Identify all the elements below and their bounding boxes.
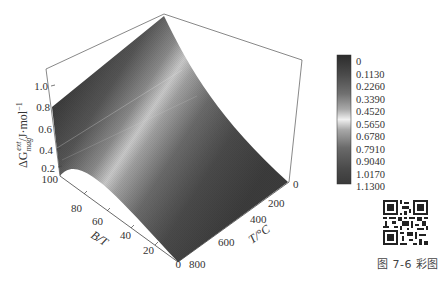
svg-text:60: 60 — [92, 215, 104, 227]
colorbar-label: 0.9040 — [356, 156, 385, 167]
svg-text:100: 100 — [42, 173, 59, 185]
svg-text:ΔGmagext/J·mol−1: ΔGmagext/J·mol−1 — [14, 102, 33, 168]
svg-text:0: 0 — [293, 178, 299, 190]
colorbar-label: 0 — [356, 56, 361, 67]
svg-text:0: 0 — [176, 258, 182, 270]
colorbar — [337, 55, 351, 184]
svg-text:0.4: 0.4 — [39, 144, 53, 156]
colorbar-label: 0.6780 — [356, 131, 385, 142]
colorbar-label: 1.0170 — [356, 169, 385, 180]
qr-code[interactable] — [383, 200, 428, 245]
colorbar-label: 0.4520 — [356, 106, 385, 117]
colorbar-label: 0.1130 — [356, 69, 385, 80]
b-axis-label: B/T — [88, 228, 111, 250]
svg-text:1.0: 1.0 — [34, 80, 48, 92]
svg-text:600: 600 — [218, 236, 235, 248]
svg-text:20: 20 — [143, 244, 155, 256]
svg-text:800: 800 — [189, 258, 206, 270]
colorbar-label: 0.3390 — [356, 94, 385, 105]
colorbar-label: 1.1300 — [356, 181, 385, 192]
svg-text:200: 200 — [268, 197, 285, 209]
svg-text:40: 40 — [120, 229, 132, 241]
t-axis-label: T/°C — [246, 221, 274, 246]
z-axis-label: ΔGmagext/J·mol−1 — [14, 102, 33, 168]
svg-text:0.8: 0.8 — [36, 101, 50, 113]
surface — [52, 16, 288, 262]
svg-text:80: 80 — [71, 202, 83, 214]
figure-caption: 图 7-6 彩图 — [377, 255, 439, 271]
colorbar-label: 0.2260 — [356, 81, 385, 92]
colorbar-label: 0.7910 — [356, 144, 385, 155]
colorbar-label: 0.5650 — [356, 119, 385, 130]
svg-text:0.6: 0.6 — [38, 123, 52, 135]
